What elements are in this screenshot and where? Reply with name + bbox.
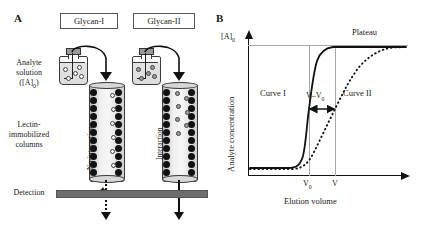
y-axis-title: Analyte concentration [226,97,236,172]
figure-root: A Glycan-I Glycan-II Analyte solution ([… [0,0,429,227]
panel-a: A Glycan-I Glycan-II Analyte solution ([… [0,0,212,227]
x-axis-title: Elution volume [284,196,337,206]
detection-bar [56,190,208,198]
outflow-arrowhead-ii [174,212,184,220]
outflow-arrowhead-i [101,212,111,220]
column-glycan-ii [162,84,196,180]
difference-arrow [305,103,345,117]
lectin-bead-column-right [188,87,195,177]
panel-b-letter: B [216,12,223,24]
curve-i-label: Curve I [260,88,286,98]
interaction-label: Interaction [155,128,164,160]
lectin-bead-column-left [163,87,170,177]
analyte-solution-label: Analyte solution ([A]0) [3,58,55,91]
panel-a-letter: A [14,12,22,24]
panel-b: B Analyte concentration [A]0 [212,0,429,227]
analyte-conc-symbol: ([A]0) [19,78,38,87]
lectin-bead-column-right [115,87,122,177]
lectin-columns-label: Lectin- immobilized columns [0,120,58,150]
x-tick-label-v: V [332,179,338,188]
inlet-arrow-glycan-ii [173,72,185,81]
plateau-label: Plateau [352,27,377,37]
y-tick-label-a0: [A]0 [221,32,235,43]
detection-label: Detection [3,188,55,198]
v-minus-v0-label: V–V0 [306,91,324,102]
no-interaction-label: No-interaction [86,126,95,170]
plot-area: Curve I Curve II V–V0 Plateau V0 V [248,38,408,176]
glycan-i-header: Glycan-I [60,13,118,29]
inlet-arrow-glycan-i [100,72,112,81]
curve-ii-label: Curve II [343,88,372,98]
glycan-ii-header: Glycan-II [133,13,195,29]
x-tick-label-v0: V0 [303,179,312,190]
